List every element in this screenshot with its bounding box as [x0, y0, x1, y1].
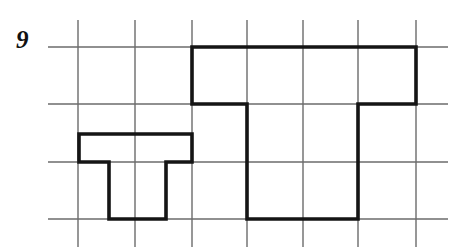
staircase-shape-right — [192, 47, 416, 219]
figure-layer — [0, 0, 461, 247]
exercise-number-label: 9 — [16, 27, 29, 52]
pi-shape-left — [79, 134, 192, 219]
exercise-page: 9 — [0, 0, 461, 247]
